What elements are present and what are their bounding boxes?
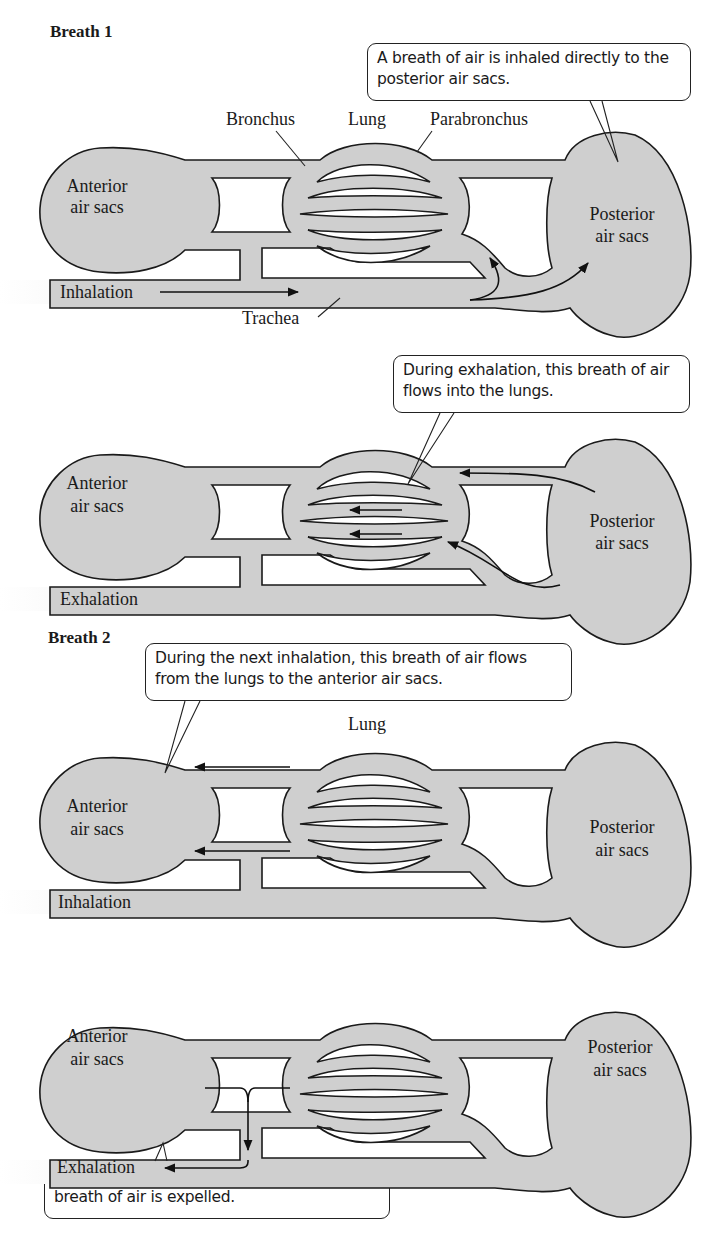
label-anterior-2: air sacs xyxy=(70,197,123,217)
label-posterior: Posterior xyxy=(590,204,655,224)
label-posterior: Posterior xyxy=(588,1037,653,1057)
label-anterior-2: air sacs xyxy=(70,1049,123,1069)
label-trachea: Trachea xyxy=(242,308,299,328)
panel-breath2-inhale: Anterior air sacs Posterior air sacs Inh… xyxy=(0,714,691,947)
label-posterior-2: air sacs xyxy=(595,840,648,860)
label-airway: Inhalation xyxy=(60,282,133,302)
panel-breath1-inhale: Anterior air sacs Posterior air sacs Inh… xyxy=(0,109,691,337)
label-anterior-2: air sacs xyxy=(70,819,123,839)
label-airway: Inhalation xyxy=(58,892,131,912)
label-lung: Lung xyxy=(348,109,386,129)
label-anterior: Anterior xyxy=(67,1026,128,1046)
label-posterior: Posterior xyxy=(590,511,655,531)
label-lung: Lung xyxy=(348,714,386,734)
panel-breath2-exhale: Anterior air sacs Posterior air sacs Exh… xyxy=(0,1012,691,1217)
label-airway: Exhalation xyxy=(60,589,138,609)
label-posterior-2: air sacs xyxy=(595,533,648,553)
label-anterior: Anterior xyxy=(67,796,128,816)
label-posterior: Posterior xyxy=(590,817,655,837)
label-parabronchus: Parabronchus xyxy=(430,109,528,129)
label-airway: Exhalation xyxy=(57,1157,135,1177)
label-bronchus: Bronchus xyxy=(226,109,295,129)
label-posterior-2: air sacs xyxy=(595,226,648,246)
air-sac-diagram: Anterior air sacs Posterior air sacs Inh… xyxy=(0,0,707,1251)
label-posterior-2: air sacs xyxy=(593,1060,646,1080)
panel-breath1-exhale: Anterior air sacs Posterior air sacs Exh… xyxy=(0,439,691,644)
label-anterior: Anterior xyxy=(67,176,128,196)
label-anterior: Anterior xyxy=(67,473,128,493)
label-anterior-2: air sacs xyxy=(70,496,123,516)
